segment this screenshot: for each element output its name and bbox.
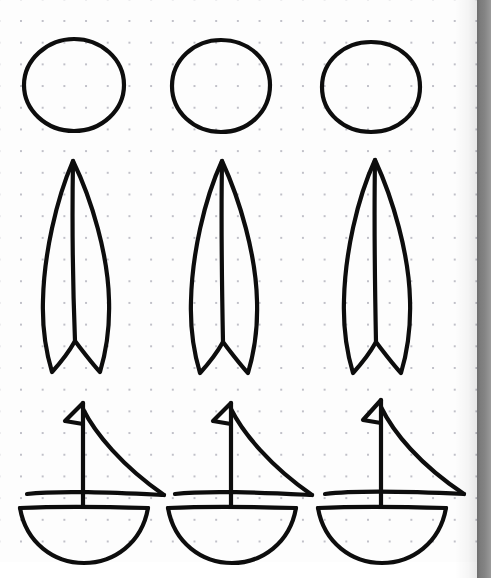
leaf-sail-1-spine <box>73 161 75 341</box>
circle-3 <box>322 42 420 132</box>
sailboat-2-boom <box>175 492 312 495</box>
sailboat-2 <box>168 403 312 563</box>
circle-2 <box>172 40 270 132</box>
sailboat-3-boom <box>325 492 464 494</box>
sailboat-2-hull <box>168 508 296 563</box>
leaf-sail-2-spine <box>222 161 223 342</box>
sailboat-2-flag <box>213 403 231 424</box>
sailboat-1-boom <box>27 492 164 495</box>
leaf-sail-3-spine <box>375 160 376 342</box>
sailboat-1-hull <box>20 508 148 563</box>
leaf-sail-row <box>43 160 410 373</box>
sailboat-1 <box>20 403 164 563</box>
sailboat-3-sail <box>381 407 464 494</box>
sailboat-row <box>20 400 464 563</box>
sailboat-1-sail <box>83 409 164 495</box>
sailboat-2-sail <box>231 409 312 495</box>
sailboat-3 <box>318 400 464 563</box>
sailboat-1-flag <box>65 403 83 424</box>
circle-row <box>24 39 420 132</box>
sailboat-3-hull <box>318 508 446 563</box>
sailboat-3-flag <box>363 400 381 423</box>
circle-1 <box>24 39 124 131</box>
ink-drawing-layer <box>0 0 491 578</box>
doodle-page <box>0 0 491 578</box>
